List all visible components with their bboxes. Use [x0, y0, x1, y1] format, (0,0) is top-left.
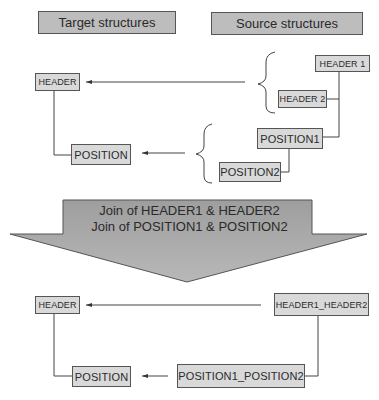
target-structures-title: Target structures [38, 11, 176, 34]
source-structures-title: Source structures [211, 12, 363, 35]
source-header1-node: HEADER 1 [315, 55, 370, 72]
target-position-node-bottom: POSITION [72, 366, 131, 387]
source-header1-header2-node: HEADER1_HEADER2 [274, 293, 369, 316]
source-tree-line-bottom [305, 316, 318, 376]
source-tree-line-position [281, 149, 289, 172]
source-position1-position2-node: POSITION1_POSITION2 [177, 364, 305, 388]
join-text-line1: Join of HEADER1 & HEADER2 [0, 203, 379, 219]
join-text-line2: Join of POSITION1 & POSITION2 [0, 219, 379, 235]
target-header-node-top: HEADER [35, 73, 80, 91]
source-position1-node: POSITION1 [257, 128, 323, 149]
header-brace-icon [258, 52, 275, 113]
source-position2-node: POSITION2 [219, 162, 281, 182]
target-header-node-bottom: HEADER [35, 296, 80, 314]
target-tree-line-bottom [54, 314, 72, 376]
target-tree-line-top [54, 91, 71, 155]
source-header2-node: HEADER 2 [278, 90, 327, 108]
target-position-node-top: POSITION [71, 144, 131, 165]
position-brace-icon [196, 124, 212, 183]
